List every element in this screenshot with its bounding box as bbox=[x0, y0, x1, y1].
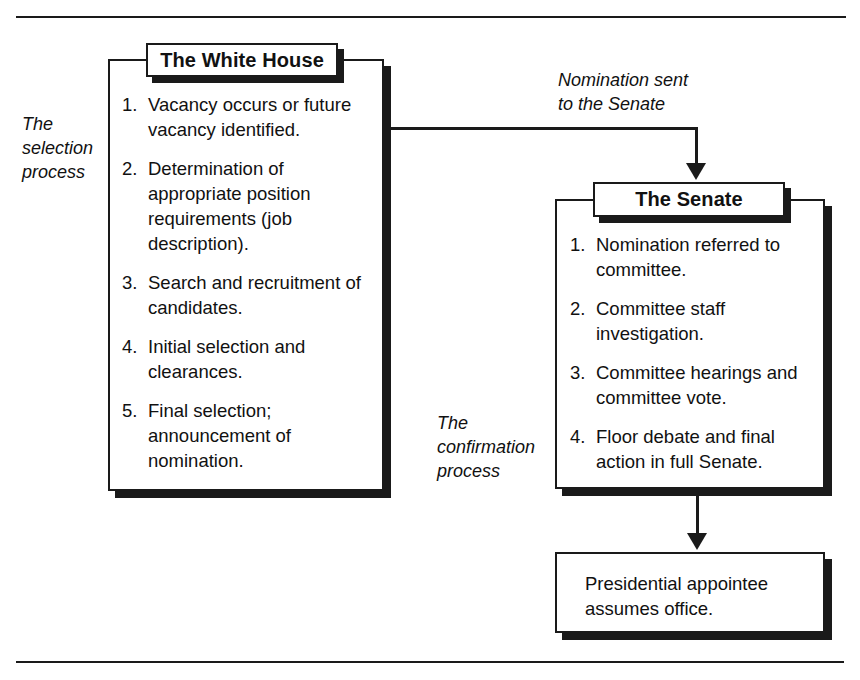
step-number: 4. bbox=[570, 424, 596, 449]
top-divider-rule bbox=[16, 16, 846, 18]
step-text: Committee staff investigation. bbox=[596, 296, 818, 346]
step-number: 3. bbox=[570, 360, 596, 385]
arrowhead-into-outcome bbox=[687, 533, 707, 550]
step-text: Vacancy occurs or future vacancy identif… bbox=[148, 92, 374, 142]
list-item: 1. Nomination referred to committee. bbox=[570, 232, 818, 282]
step-text: Initial selection and clearances. bbox=[148, 334, 374, 384]
step-text: Search and recruitment of candidates. bbox=[148, 270, 374, 320]
step-number: 1. bbox=[122, 92, 148, 117]
step-number: 4. bbox=[122, 334, 148, 359]
caption-line: to the Senate bbox=[558, 92, 758, 116]
senate-step-list: 1. Nomination referred to committee. 2. … bbox=[570, 232, 818, 474]
white-house-title-plaque: The White House bbox=[146, 43, 338, 77]
step-text: Floor debate and final action in full Se… bbox=[596, 424, 818, 474]
list-item: 2. Committee staff investigation. bbox=[570, 296, 818, 346]
step-text: Determination of appropriate position re… bbox=[148, 156, 374, 256]
outcome-text: Presidential appointee assumes office. bbox=[585, 571, 810, 621]
nomination-process-diagram: The White House 1. Vacancy occurs or fut… bbox=[0, 0, 860, 680]
step-number: 2. bbox=[122, 156, 148, 181]
bottom-divider-rule bbox=[16, 661, 844, 663]
list-item: 4. Initial selection and clearances. bbox=[122, 334, 374, 384]
caption-line: confirmation bbox=[437, 435, 549, 459]
caption-line: The bbox=[22, 112, 108, 136]
senate-title-plaque: The Senate bbox=[593, 182, 785, 217]
selection-process-caption: The selection process bbox=[22, 112, 108, 184]
list-item: 3. Committee hearings and committee vote… bbox=[570, 360, 818, 410]
step-number: 2. bbox=[570, 296, 596, 321]
list-item: 5. Final selection; announcement of nomi… bbox=[122, 398, 374, 473]
caption-line: process bbox=[22, 160, 108, 184]
connector-senate-to-outcome-vertical bbox=[696, 491, 699, 535]
step-text: Final selection; announcement of nominat… bbox=[148, 398, 374, 473]
connector-wh-to-senate-horizontal bbox=[384, 127, 697, 130]
list-item: 4. Floor debate and final action in full… bbox=[570, 424, 818, 474]
caption-line: process bbox=[437, 459, 549, 483]
nomination-sent-caption: Nomination sent to the Senate bbox=[558, 68, 758, 116]
caption-line: The bbox=[437, 411, 549, 435]
white-house-step-list: 1. Vacancy occurs or future vacancy iden… bbox=[122, 92, 374, 473]
connector-wh-to-senate-vertical bbox=[695, 127, 698, 165]
arrowhead-into-senate bbox=[686, 163, 706, 180]
caption-line: Nomination sent bbox=[558, 68, 758, 92]
list-item: 2. Determination of appropriate position… bbox=[122, 156, 374, 256]
step-number: 5. bbox=[122, 398, 148, 423]
confirmation-process-caption: The confirmation process bbox=[437, 411, 549, 483]
caption-line: selection bbox=[22, 136, 108, 160]
step-number: 1. bbox=[570, 232, 596, 257]
step-number: 3. bbox=[122, 270, 148, 295]
list-item: 3. Search and recruitment of candidates. bbox=[122, 270, 374, 320]
step-text: Nomination referred to committee. bbox=[596, 232, 818, 282]
list-item: 1. Vacancy occurs or future vacancy iden… bbox=[122, 92, 374, 142]
senate-title: The Senate bbox=[635, 188, 743, 211]
step-text: Committee hearings and committee vote. bbox=[596, 360, 818, 410]
white-house-title: The White House bbox=[160, 49, 324, 72]
